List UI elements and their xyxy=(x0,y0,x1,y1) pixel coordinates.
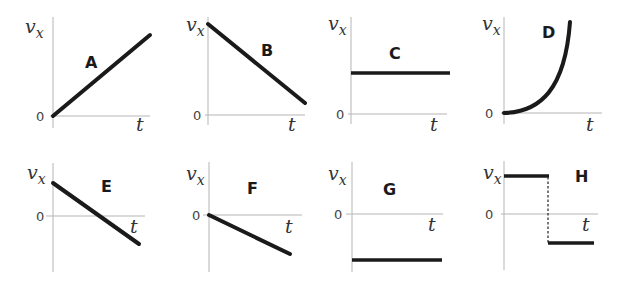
x-axis-label: t xyxy=(288,113,296,135)
origin-label: 0 xyxy=(485,207,493,222)
panel-h: H vx 0 t xyxy=(483,161,598,270)
origin-label: 0 xyxy=(485,106,493,121)
panel-g: G vx 0 t xyxy=(328,162,443,272)
panel-a: A vx 0 t xyxy=(25,15,150,135)
y-axis-label: vx xyxy=(186,13,205,39)
x-axis-label: t xyxy=(430,113,438,135)
velocity-line xyxy=(208,24,305,103)
y-axis-label: vx xyxy=(482,12,501,38)
y-axis-label: vx xyxy=(483,161,502,187)
velocity-line xyxy=(53,35,150,116)
y-axis-label: vx xyxy=(328,12,347,38)
panel-e: E vx 0 t xyxy=(27,161,145,272)
x-axis-label: t xyxy=(130,215,138,237)
panel-label: D xyxy=(542,23,555,42)
panel-f: F vx 0 t xyxy=(186,162,302,272)
panel-c: C vx 0 t xyxy=(328,12,450,135)
panel-label: C xyxy=(389,44,401,63)
origin-label: 0 xyxy=(336,107,344,122)
velocity-curve xyxy=(504,22,570,113)
origin-label: 0 xyxy=(36,209,44,224)
origin-label: 0 xyxy=(192,208,200,223)
x-axis-label: t xyxy=(428,213,436,235)
origin-label: 0 xyxy=(334,207,342,222)
origin-label: 0 xyxy=(36,109,44,124)
panel-label: G xyxy=(383,180,396,199)
x-axis-label: t xyxy=(136,113,144,135)
panel-d: D vx 0 t xyxy=(482,12,602,135)
graphs-canvas: A vx 0 t B vx 0 t C vx 0 t D vx 0 t xyxy=(0,0,630,288)
y-axis-label: vx xyxy=(328,162,347,188)
x-axis-label: t xyxy=(285,215,293,237)
y-axis-label: vx xyxy=(186,162,205,188)
x-axis-label: t xyxy=(586,113,594,135)
y-axis-label: vx xyxy=(25,15,44,41)
origin-label: 0 xyxy=(193,108,201,123)
panel-label: B xyxy=(261,41,273,60)
panel-b: B vx 0 t xyxy=(186,13,305,135)
panel-label: E xyxy=(101,177,112,196)
velocity-line xyxy=(53,183,139,244)
x-axis-label: t xyxy=(582,213,590,235)
panel-label: H xyxy=(575,167,588,186)
panel-label: A xyxy=(85,53,98,72)
panel-label: F xyxy=(247,179,258,198)
velocity-line xyxy=(209,215,290,254)
y-axis-label: vx xyxy=(27,161,46,187)
